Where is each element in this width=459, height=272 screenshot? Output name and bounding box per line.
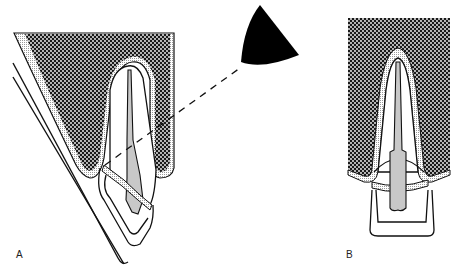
panel-b	[348, 18, 450, 236]
panel-label-b: B	[346, 249, 353, 260]
dental-diagram	[0, 0, 459, 272]
lip-tip	[118, 258, 128, 263]
wedge-shape	[241, 5, 299, 65]
panel-label-a: A	[16, 249, 23, 260]
panel-a	[13, 33, 240, 264]
